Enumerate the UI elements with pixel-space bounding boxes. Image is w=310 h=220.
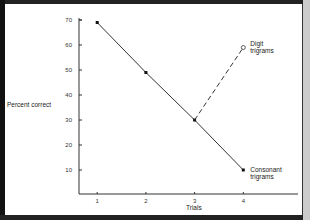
line-chart: 10203040506070 1234 ConsonanttrigramsDig… <box>0 0 310 220</box>
x-tick-label: 4 <box>242 198 246 204</box>
y-tick-label: 10 <box>65 167 72 173</box>
series-label: Consonant <box>250 166 282 173</box>
series-group: ConsonanttrigramsDigittrigrams <box>96 21 282 181</box>
series-label: trigrams <box>250 173 274 181</box>
y-axis-label: Percent correct <box>7 101 51 108</box>
y-tick-label: 30 <box>65 117 72 123</box>
y-tick-label: 70 <box>65 17 72 23</box>
data-point-marker <box>144 71 147 74</box>
data-point-marker <box>241 46 245 50</box>
y-tick-label: 20 <box>65 142 72 148</box>
y-tick-label: 60 <box>65 42 72 48</box>
data-point-marker <box>242 169 245 172</box>
series-digit-trigrams: Digittrigrams <box>195 40 275 121</box>
y-tick-label: 50 <box>65 67 72 73</box>
y-tick-label: 40 <box>65 92 72 98</box>
series-line <box>195 48 244 121</box>
series-line <box>97 23 243 171</box>
series-label: trigrams <box>250 47 274 55</box>
x-tick-label: 2 <box>144 198 148 204</box>
x-axis-label: Trials <box>186 204 202 211</box>
x-tick-label: 1 <box>96 198 100 204</box>
data-point-marker <box>96 21 99 24</box>
